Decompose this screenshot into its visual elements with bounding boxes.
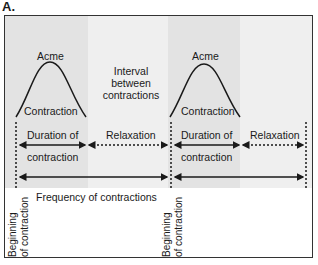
frequency-label: Frequency of contractions [36,191,157,203]
beginning-label-2b: of contraction [173,197,184,257]
beginning-label-2a: Beginning [161,213,172,257]
interval-label-1: Interval [107,65,155,77]
duration-label-1a: Duration of [27,129,78,141]
duration-label-1b: contraction [27,151,78,163]
duration-label-2b: contraction [181,151,232,163]
acme-label-2: Acme [192,50,219,62]
beginning-label-1a: Beginning [7,213,18,257]
duration-label-2a: Duration of [181,129,232,141]
contraction-label-2: Contraction [181,105,235,117]
contraction-label-1: Contraction [24,105,78,117]
acme-label-1: Acme [37,50,64,62]
relaxation-label-1: Relaxation [106,129,156,141]
beginning-label-1b: of contraction [19,197,30,257]
interval-label-2: between [107,77,155,89]
relaxation-label-2: Relaxation [250,129,300,141]
interval-label-3: contractions [97,89,165,101]
